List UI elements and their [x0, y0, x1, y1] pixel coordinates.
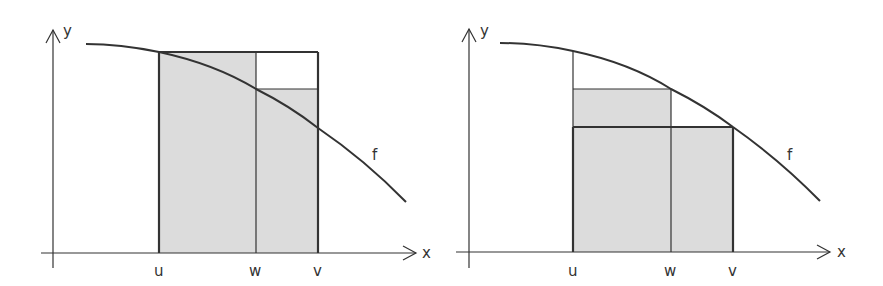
lower-rect-u-w: [573, 89, 671, 252]
upper-rect-u-w: [159, 52, 256, 253]
x-axis-label: x: [422, 244, 431, 262]
tick-v: v: [728, 262, 737, 280]
y-axis-label: y: [63, 22, 72, 40]
tick-w: w: [249, 262, 261, 280]
lower-rect-w-v: [671, 127, 733, 252]
curve-label: f: [787, 146, 793, 164]
y-axis-label: y: [480, 22, 489, 40]
tick-u: u: [568, 262, 578, 280]
x-axis-label: x: [837, 243, 846, 261]
right-plot: y x f u w v: [456, 22, 846, 280]
figure: y x f u w v y x f u w v: [0, 0, 883, 286]
tick-w: w: [664, 262, 676, 280]
curve-label: f: [372, 146, 378, 164]
upper-rect-w-v: [256, 89, 318, 253]
tick-u: u: [154, 262, 164, 280]
tick-v: v: [313, 262, 322, 280]
left-plot: y x f u w v: [41, 22, 431, 280]
